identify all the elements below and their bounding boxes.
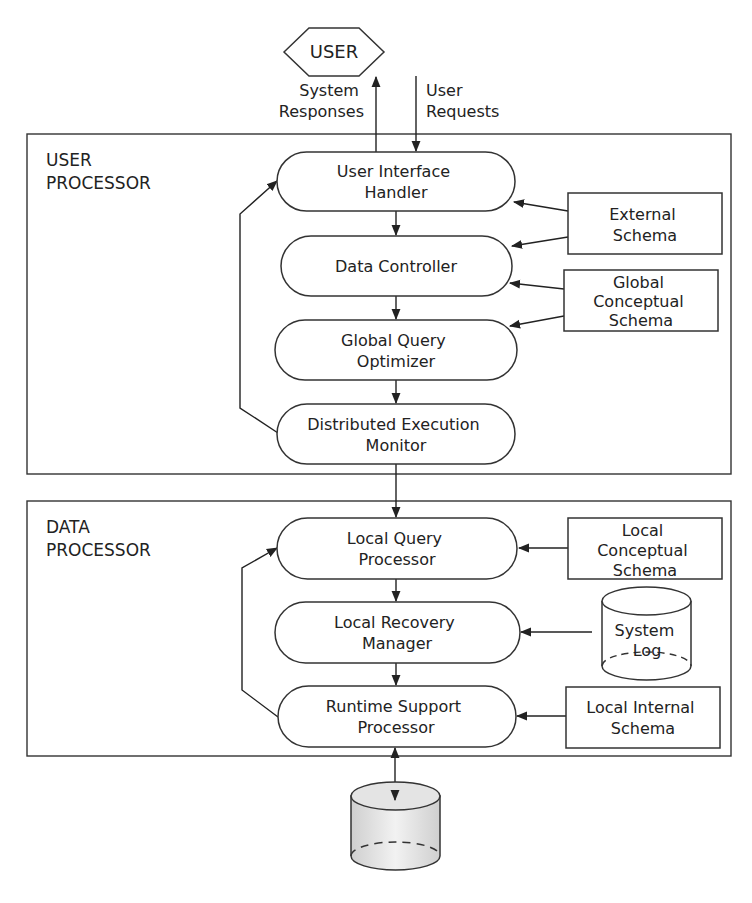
edge-gcs-to-data-controller bbox=[510, 283, 564, 289]
edge-dem-feedback-loop bbox=[240, 181, 278, 433]
schema-global-conceptual: Global Conceptual Schema bbox=[564, 270, 718, 331]
node-local-recovery-manager: Local Recovery Manager bbox=[275, 602, 520, 663]
edge-rsp-feedback-loop bbox=[242, 548, 278, 717]
data-processor-title: DATA PROCESSOR bbox=[46, 517, 151, 560]
database-cylinder-icon bbox=[351, 782, 440, 870]
node-global-query-optimizer: Global Query Optimizer bbox=[275, 320, 517, 380]
node-runtime-support-processor: Runtime Support Processor bbox=[278, 686, 516, 747]
edge-gcs-to-gqo bbox=[510, 316, 564, 326]
edge-external-schema-to-ui bbox=[514, 202, 568, 211]
system-log-cylinder: System Log bbox=[602, 587, 691, 680]
node-distributed-execution-monitor: Distributed Execution Monitor bbox=[277, 404, 515, 464]
distributed-dbms-architecture-diagram: USER System Responses User Requests USER… bbox=[0, 0, 752, 903]
user-label: USER bbox=[310, 41, 358, 62]
node-local-query-processor: Local Query Processor bbox=[277, 518, 517, 579]
schema-local-internal: Local Internal Schema bbox=[566, 687, 720, 748]
edge-external-schema-to-data-controller bbox=[512, 237, 568, 246]
node-data-controller: Data Controller bbox=[281, 236, 512, 296]
user-actor: USER bbox=[284, 28, 384, 76]
svg-text:Data Controller: Data Controller bbox=[335, 257, 457, 276]
node-user-interface-handler: User Interface Handler bbox=[277, 152, 515, 211]
schema-local-conceptual: Local Conceptual Schema bbox=[568, 518, 722, 580]
schema-external: External Schema bbox=[568, 193, 722, 254]
user-requests-label: User Requests bbox=[426, 81, 499, 121]
user-processor-title: USER PROCESSOR bbox=[46, 150, 151, 193]
system-responses-label: System Responses bbox=[279, 81, 364, 121]
